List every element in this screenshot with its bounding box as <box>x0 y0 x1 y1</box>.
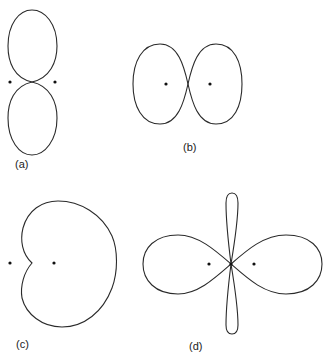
panel-c-label: (c) <box>16 339 29 350</box>
panel-b-focus-right <box>208 82 211 85</box>
panel-d-focus-right <box>252 262 255 265</box>
panel-d-focus-left <box>207 262 210 265</box>
panel-a-focus-left <box>8 80 11 83</box>
panel-c-focus-right <box>52 261 55 264</box>
figure-canvas <box>0 0 328 357</box>
panel-c-focus-left <box>8 261 11 264</box>
panel-c-curve <box>21 201 116 327</box>
panel-b-focus-left <box>164 82 167 85</box>
panel-b-label: (b) <box>183 142 196 153</box>
panel-a-label: (a) <box>15 159 28 170</box>
panel-a-focus-right <box>53 80 56 83</box>
panel-d-label: (d) <box>189 341 202 352</box>
panel-d-center-point <box>229 262 232 265</box>
panel-a-curve <box>8 10 57 155</box>
panel-b-curve <box>133 44 242 124</box>
